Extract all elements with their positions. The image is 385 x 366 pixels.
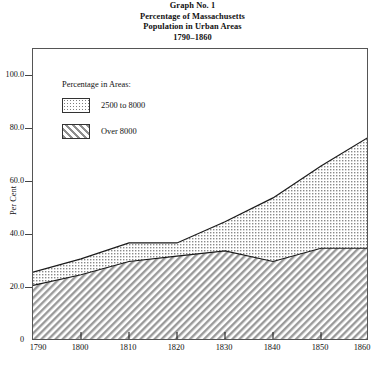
x-tick-label-1820: 1820	[168, 343, 185, 352]
title-line-3: Population in Urban Areas	[0, 22, 385, 33]
chart-title: Graph No. 1 Percentage of Massachusetts …	[0, 1, 385, 43]
legend-item-over-8000: Over 8000	[62, 123, 227, 140]
y-axis-ticks	[0, 0, 34, 366]
legend-label-2500-to-8000: 2500 to 8000	[101, 101, 145, 110]
legend-item-2500-to-8000: 2500 to 8000	[62, 97, 227, 114]
y-tick-mark-20-0	[25, 287, 32, 288]
x-tick-label-1840: 1840	[264, 343, 281, 352]
legend-swatch-dotted-icon	[62, 98, 90, 113]
x-tick-label-1790: 1790	[30, 343, 47, 352]
x-tick-label-1850: 1850	[312, 343, 329, 352]
legend-label-over-8000: Over 8000	[101, 127, 137, 136]
x-tick-label-1830: 1830	[216, 343, 233, 352]
title-line-4: 1790–1860	[0, 33, 385, 44]
legend-heading: Percentage in Areas:	[62, 80, 227, 89]
y-tick-mark-100-0	[25, 75, 32, 76]
title-line-2: Percentage of Massachusetts	[0, 12, 385, 23]
title-line-1: Graph No. 1	[0, 1, 385, 12]
legend-swatch-hatch-icon	[62, 124, 90, 139]
y-tick-mark-80-0	[25, 128, 32, 129]
y-tick-mark-40-0	[25, 234, 32, 235]
chart-legend: Percentage in Areas: 2500 to 8000 Over 8…	[62, 80, 227, 149]
y-tick-mark-60-0	[25, 181, 32, 182]
x-axis-tick-labels: 17901800181018201830184018501860	[0, 343, 385, 363]
x-tick-label-1810: 1810	[120, 343, 137, 352]
x-tick-label-1800: 1800	[72, 343, 89, 352]
x-tick-label-1860: 1860	[354, 343, 371, 352]
